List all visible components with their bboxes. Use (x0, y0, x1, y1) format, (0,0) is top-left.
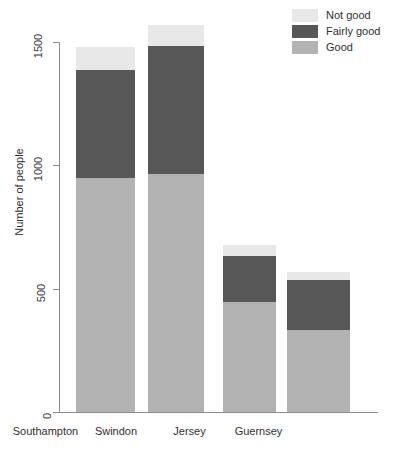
bar-segment[interactable] (148, 46, 204, 174)
legend-item[interactable]: Fairly good (292, 24, 392, 39)
bar-segment[interactable] (76, 70, 135, 178)
y-axis-tick-label-text: 1000 (32, 157, 44, 181)
y-axis-tick-label: 0 (0, 406, 50, 418)
bar-stack[interactable] (148, 10, 204, 413)
legend-swatch (292, 9, 318, 22)
bar-stack[interactable] (223, 10, 276, 413)
bar-stack[interactable] (287, 10, 350, 413)
bar-segment[interactable] (223, 245, 276, 256)
legend-item[interactable]: Not good (292, 8, 392, 23)
y-axis-tick (53, 289, 59, 290)
bar-segment[interactable] (148, 174, 204, 412)
y-axis-tick (53, 42, 59, 43)
bar-segment[interactable] (223, 256, 276, 302)
legend-label: Not good (326, 8, 371, 23)
y-axis-title: Number of people (13, 137, 25, 247)
bar-segment[interactable] (223, 302, 276, 412)
y-axis-tick (53, 165, 59, 166)
y-axis-tick-label: 1000 (0, 159, 50, 171)
y-axis-tick-label-text: 500 (35, 283, 47, 301)
x-axis-tick-label: Guernsey (199, 425, 319, 437)
legend-swatch (292, 41, 318, 54)
bar-segment[interactable] (76, 47, 135, 70)
bar-stack[interactable] (76, 10, 135, 413)
bar-segment[interactable] (76, 178, 135, 412)
bar-segment[interactable] (148, 25, 204, 46)
legend-item[interactable]: Good (292, 40, 392, 55)
plot-area (60, 10, 380, 413)
legend: Not goodFairly goodGood (292, 8, 392, 56)
bar-segment[interactable] (287, 272, 350, 280)
y-axis-tick-label: 500 (0, 283, 50, 295)
bar-segment[interactable] (287, 280, 350, 330)
y-axis-tick-label: 1500 (0, 36, 50, 48)
stacked-bar-chart: 050010001500 Number of people Southampto… (0, 0, 394, 458)
legend-label: Good (326, 40, 353, 55)
y-axis-tick-label-text: 1500 (32, 34, 44, 58)
bar-segment[interactable] (287, 330, 350, 412)
y-axis-tick-label-text: 0 (41, 413, 53, 419)
legend-swatch (292, 25, 318, 38)
legend-label: Fairly good (326, 24, 380, 39)
x-axis-line (59, 412, 378, 413)
